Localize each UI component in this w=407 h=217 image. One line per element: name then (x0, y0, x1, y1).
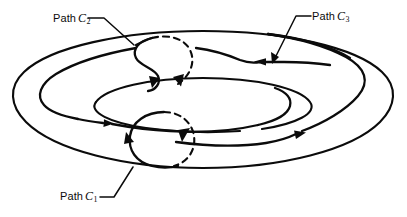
path-c3-arrowhead-right (294, 130, 306, 139)
label-path-c1-symbol: C1 (83, 189, 97, 203)
torus-hole-outline (96, 78, 312, 129)
label-path-c3: PathC3 (312, 10, 349, 22)
torus-diagram-canvas (0, 0, 407, 217)
label-path-c1: PathC1 (60, 190, 97, 202)
path-c2-crossing-detail (136, 38, 152, 45)
label-path-c3-subscript: 3 (345, 15, 349, 24)
torus-paths-figure: PathC2 PathC3 PathC1 (0, 0, 407, 217)
label-path-c2-letter: C (78, 11, 86, 25)
label-path-c2-prefix: Path (53, 12, 76, 24)
leader-line-c1 (100, 167, 133, 197)
path-c3-upper-left (40, 48, 136, 119)
torus-hole-outline-lower (94, 102, 240, 132)
label-path-c1-subscript: 1 (93, 195, 97, 204)
path-c3-left-lower (78, 119, 103, 123)
path-c3-right-upper-return (258, 88, 290, 125)
path-c1-back-arc (164, 112, 194, 166)
path-c3-top-to-c2 (196, 48, 260, 63)
label-path-c3-letter: C (337, 9, 345, 23)
path-c1-front-arc (130, 112, 178, 168)
label-path-c2-subscript: 2 (86, 17, 90, 26)
label-path-c2: PathC2 (53, 12, 90, 24)
label-path-c1-prefix: Path (60, 190, 83, 202)
label-path-c2-symbol: C2 (76, 11, 90, 25)
label-path-c3-prefix: Path (312, 10, 335, 22)
path-c1-arrowhead-back (178, 128, 190, 142)
label-path-c3-symbol: C3 (335, 9, 349, 23)
label-path-c1-letter: C (85, 189, 93, 203)
path-c1-arrowhead-front (124, 132, 134, 144)
